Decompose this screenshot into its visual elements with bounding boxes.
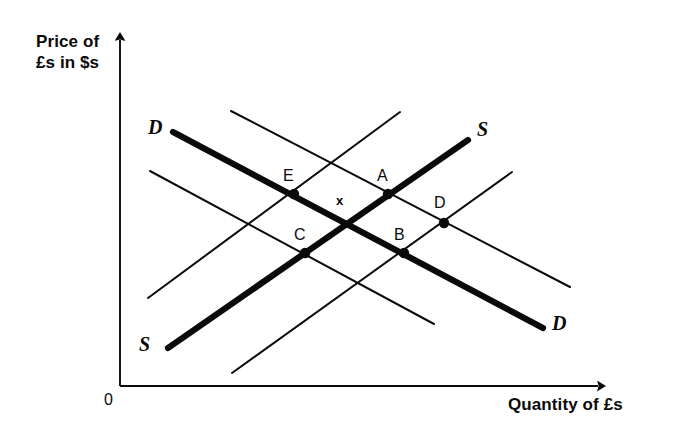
point-label-E: E	[283, 167, 294, 185]
price-axis-label: Price of£s in $s	[36, 32, 99, 73]
point-dot-C	[300, 248, 310, 258]
figure-canvas	[0, 0, 676, 440]
demand-label-top-left: D	[148, 116, 162, 139]
supply-label-top-right: S	[477, 118, 488, 141]
supply-curve-bold	[168, 140, 468, 348]
bold-curves	[168, 132, 543, 348]
point-label-A: A	[377, 167, 388, 185]
exchange-rate-supply-demand-figure: Price of£s in $s Quantity of £s 0 D D S …	[0, 0, 676, 440]
point-label-C: C	[294, 226, 306, 244]
equilibrium-x-marker: x	[336, 193, 343, 208]
point-label-D: D	[434, 194, 446, 212]
supply-label-bottom-left: S	[139, 333, 150, 356]
origin-label: 0	[104, 391, 113, 409]
point-dot-E	[289, 189, 299, 199]
point-dot-B	[399, 248, 409, 258]
point-label-B: B	[394, 226, 405, 244]
demand-label-bottom-right: D	[552, 312, 566, 335]
point-dot-A	[383, 189, 393, 199]
quantity-axis-label: Quantity of £s	[508, 395, 623, 416]
demand-curve-bold	[173, 132, 543, 328]
point-dot-D	[439, 218, 449, 228]
